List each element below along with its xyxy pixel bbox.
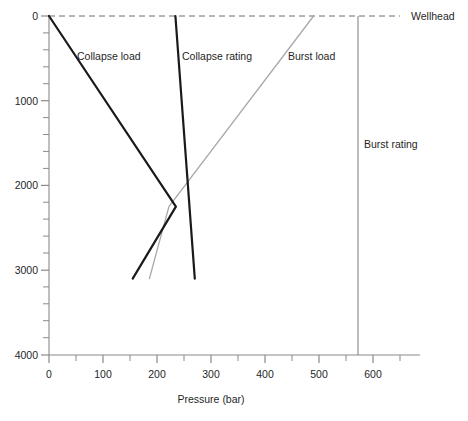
- annotation-burst-load: Burst load: [288, 50, 335, 62]
- y-tick-label-4000: 4000: [4, 349, 38, 361]
- x-tick-label-100: 100: [94, 368, 112, 380]
- axis-lines: [49, 16, 420, 355]
- x-tick-label-600: 600: [364, 368, 382, 380]
- annotation-collapse-load: Collapse load: [77, 50, 141, 62]
- x-tick-label-200: 200: [148, 368, 166, 380]
- y-tick-label-0: 0: [4, 10, 38, 22]
- x-major-ticks: [49, 355, 373, 363]
- y-tick-label-3000: 3000: [4, 264, 38, 276]
- x-axis-title: Pressure (bar): [177, 393, 244, 405]
- annotation-wellhead: Wellhead: [411, 10, 455, 22]
- chart-canvas: [0, 0, 468, 421]
- x-tick-label-400: 400: [256, 368, 274, 380]
- x-minor-ticks: [76, 355, 400, 361]
- y-tick-label-2000: 2000: [4, 179, 38, 191]
- y-tick-label-1000: 1000: [4, 95, 38, 107]
- x-tick-label-300: 300: [202, 368, 220, 380]
- annotation-collapse-rating: Collapse rating: [182, 50, 252, 62]
- annotation-burst-rating: Burst rating: [364, 138, 418, 150]
- pressure-depth-chart: 0 100 200 300 400 500 600 0 1000 2000 30…: [0, 0, 468, 421]
- x-tick-label-500: 500: [310, 368, 328, 380]
- x-tick-label-0: 0: [46, 368, 52, 380]
